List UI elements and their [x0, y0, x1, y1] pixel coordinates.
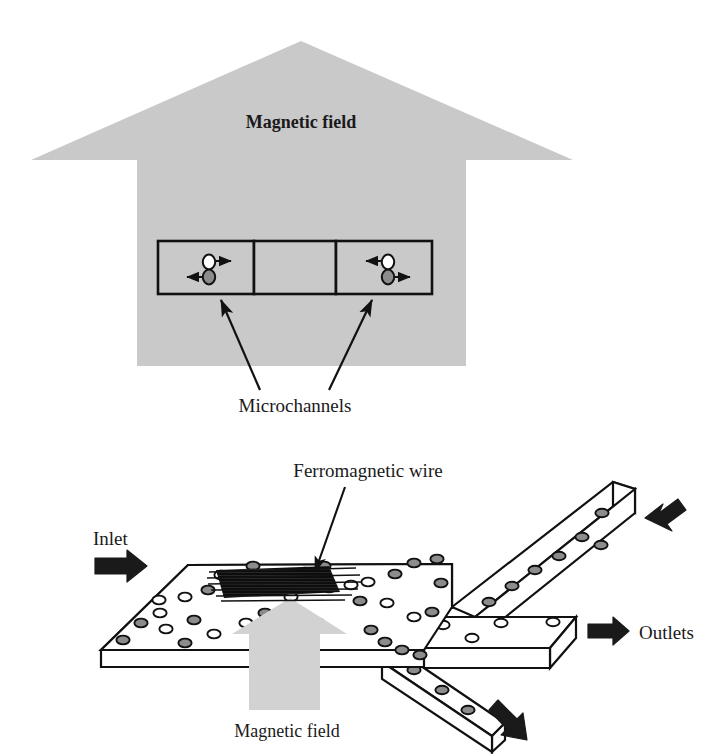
particle-magnetic — [575, 533, 588, 542]
particle-nonmagnetic — [152, 596, 165, 605]
particle-nonmagnetic — [494, 619, 507, 628]
particle-nonmagnetic — [203, 255, 215, 270]
particle-magnetic — [595, 509, 608, 518]
particle-magnetic — [482, 598, 495, 607]
ferromagnetic-wire-leader — [315, 487, 345, 572]
particle-magnetic — [203, 270, 215, 285]
figure-root: Magnetic field — [0, 0, 706, 754]
microchannel-box-middle — [254, 241, 336, 294]
particle-magnetic — [552, 552, 565, 561]
top-panel: Magnetic field — [31, 41, 573, 416]
particle-magnetic — [528, 566, 541, 575]
particle-magnetic — [407, 559, 420, 568]
particle-magnetic — [382, 270, 394, 285]
particle-magnetic — [505, 582, 518, 591]
particle-magnetic — [395, 646, 408, 655]
outlets-label: Outlets — [639, 622, 694, 643]
particle-magnetic — [413, 651, 426, 660]
ferromagnetic-wire-label: Ferromagnetic wire — [293, 460, 442, 481]
particle-magnetic — [134, 619, 147, 628]
inlet-label: Inlet — [93, 528, 129, 549]
particle-nonmagnetic — [546, 618, 559, 627]
particle-magnetic — [116, 636, 129, 645]
particle-magnetic — [434, 579, 447, 588]
outlet-channel-upper — [452, 482, 686, 639]
particle-nonmagnetic — [178, 593, 191, 602]
particle-magnetic — [430, 555, 443, 564]
particle-nonmagnetic — [159, 625, 172, 634]
particle-magnetic — [425, 608, 438, 617]
particle-magnetic — [364, 626, 377, 635]
figure-canvas: Magnetic field — [0, 0, 706, 754]
particle-nonmagnetic — [380, 599, 393, 608]
outlet-upper-top-face — [452, 482, 635, 617]
magnetic-field-arrow-up — [31, 41, 573, 366]
particle-magnetic — [594, 541, 607, 550]
particle-magnetic — [378, 638, 391, 647]
particle-nonmagnetic — [465, 634, 478, 643]
microchannels-label: Microchannels — [239, 395, 352, 416]
particle-magnetic — [388, 570, 401, 579]
particle-magnetic — [435, 686, 448, 695]
particle-nonmagnetic — [361, 578, 374, 587]
particle-magnetic — [461, 706, 474, 715]
particle-magnetic — [187, 616, 200, 625]
particle-nonmagnetic — [153, 609, 166, 618]
particle-nonmagnetic — [207, 630, 220, 639]
top-magnetic-field-label: Magnetic field — [246, 112, 356, 132]
particle-magnetic — [353, 597, 366, 606]
outlet-middle-flow-arrow — [588, 617, 629, 645]
particle-magnetic — [178, 639, 191, 648]
particle-nonmagnetic — [382, 255, 394, 270]
outlet-channel-middle: Outlets — [398, 617, 694, 668]
inlet-flow-arrow — [95, 550, 147, 582]
particle-nonmagnetic — [407, 613, 420, 622]
outlet-upper-flow-arrow — [645, 499, 686, 531]
bottom-panel: Outlets — [93, 460, 694, 752]
bottom-magnetic-field-label: Magnetic field — [234, 721, 339, 741]
